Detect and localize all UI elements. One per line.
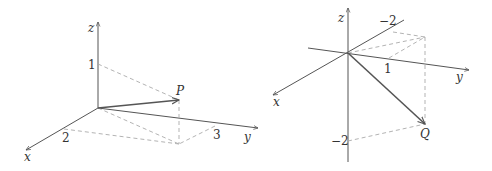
y-axis-label: y (455, 70, 463, 84)
y-axis (98, 108, 258, 128)
dash-xneg2-to-corner (393, 32, 425, 37)
z-axis-label: z (337, 11, 345, 25)
y-tick-label: 3 (213, 128, 221, 142)
right-panel: z x y −2 1 −2 Q (273, 8, 469, 162)
vector-diagram: z x y 1 2 3 P z x y −2 1 −2 Q (0, 0, 492, 171)
z-axis-label: z (87, 21, 95, 35)
z-tick-label: −2 (331, 134, 349, 148)
y-axis-label: y (243, 130, 251, 144)
x-axis-label: x (24, 150, 31, 164)
dash-x2-to-floor (64, 129, 179, 144)
dash-z1-to-p (98, 64, 179, 100)
x-tick-label: −2 (379, 14, 397, 28)
point-q-label: Q (420, 127, 430, 141)
left-panel: z x y 1 2 3 P (24, 21, 258, 164)
vector-op (98, 100, 179, 108)
x-tick-label: 2 (62, 131, 70, 145)
dash-y1-to-corner (389, 37, 425, 58)
y-tick-label: 1 (384, 62, 392, 76)
dash-zneg2-to-q (348, 124, 425, 141)
x-axis (273, 20, 404, 95)
z-tick-label: 1 (88, 58, 96, 72)
x-axis-label: x (273, 95, 280, 109)
dash-y3-to-floor (179, 126, 215, 144)
point-p-label: P (175, 84, 185, 98)
